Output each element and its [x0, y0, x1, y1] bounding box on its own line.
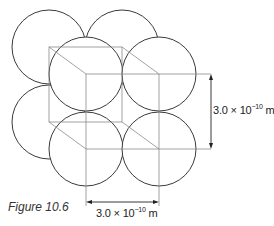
vertical-dimension-label: 3.0 × 10−10 m — [213, 104, 274, 116]
horizontal-dimension-label: 3.0 × 10−10 m — [96, 207, 158, 219]
figure-caption: Figure 10.6 — [8, 200, 69, 214]
dimension-exponent: −10 — [251, 103, 262, 110]
dimension-unit: m — [146, 207, 158, 219]
arrowhead-up-icon — [209, 74, 213, 80]
arrowhead-right-icon — [153, 200, 159, 204]
dimension-exponent: −10 — [134, 206, 145, 213]
dimension-unit: m — [263, 104, 274, 116]
dimension-mantissa: 3.0 × 10 — [96, 207, 134, 219]
arrowhead-left-icon — [86, 200, 92, 204]
arrowhead-down-icon — [209, 143, 213, 149]
dimension-mantissa: 3.0 × 10 — [213, 104, 251, 116]
